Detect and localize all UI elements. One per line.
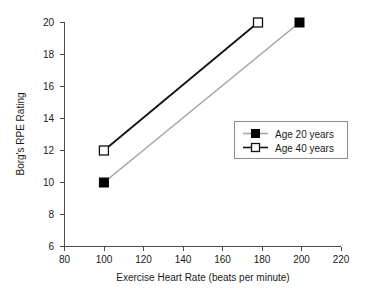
legend-label-age-40: Age 40 years: [275, 143, 334, 154]
y-tick-label-12: 12: [43, 145, 55, 156]
legend-marker-open-square-icon: [252, 144, 260, 152]
legend-marker-filled-square-icon: [252, 130, 260, 138]
x-tick-label-220: 220: [333, 254, 350, 265]
series-age-40-marker-1: [254, 18, 263, 27]
chart-canvas: 6 8 10 12 14 16 18 20 80 100 120 140 160…: [0, 0, 370, 297]
series-age-20-years: [99, 18, 304, 187]
x-tick-label-140: 140: [175, 254, 192, 265]
x-axis-title: Exercise Heart Rate (beats per minute): [116, 272, 289, 283]
legend-entry-age-40-years[interactable]: Age 40 years: [243, 143, 334, 154]
x-tick-label-180: 180: [254, 254, 271, 265]
chart-figure: 6 8 10 12 14 16 18 20 80 100 120 140 160…: [0, 0, 370, 297]
series-age-20-marker-1: [295, 18, 304, 27]
x-tick-label-100: 100: [96, 254, 113, 265]
legend-label-age-20: Age 20 years: [275, 129, 334, 140]
x-tick-label-160: 160: [214, 254, 231, 265]
chart-legend[interactable]: Age 20 years Age 40 years: [235, 122, 348, 159]
legend-entry-age-20-years[interactable]: Age 20 years: [243, 129, 334, 140]
y-tick-label-14: 14: [43, 113, 55, 124]
series-age-20-marker-0: [99, 178, 108, 187]
x-tick-label-80: 80: [59, 254, 71, 265]
x-axis-ticks: 80 100 120 140 160 180 200 220: [59, 247, 350, 266]
x-tick-label-120: 120: [135, 254, 152, 265]
y-tick-label-18: 18: [43, 49, 55, 60]
y-axis-ticks: 6 8 10 12 14 16 18 20: [43, 17, 65, 252]
x-tick-label-200: 200: [293, 254, 310, 265]
y-tick-label-8: 8: [48, 209, 54, 220]
y-tick-label-10: 10: [43, 177, 55, 188]
y-axis-title: Borg's RPE Rating: [15, 92, 26, 175]
series-age-40-marker-0: [99, 146, 108, 155]
y-tick-label-6: 6: [48, 241, 54, 252]
y-tick-label-20: 20: [43, 17, 55, 28]
y-tick-label-16: 16: [43, 81, 55, 92]
